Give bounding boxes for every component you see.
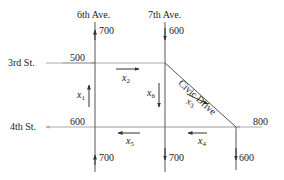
- flow-3rd-left: 500: [70, 53, 85, 63]
- flow-6th-bottom: 700: [99, 153, 114, 163]
- x6-label: x6: [147, 88, 155, 101]
- sixth-avenue-label: 6th Ave.: [77, 10, 110, 20]
- x4-label: x4: [198, 136, 206, 149]
- flow-7th-bottom: 700: [169, 153, 184, 163]
- x2-label: x2: [122, 73, 130, 86]
- flow-6th-top: 700: [99, 26, 114, 36]
- flow-right-bottom: 600: [239, 153, 254, 163]
- flow-7th-top: 600: [169, 26, 184, 36]
- third-street-label: 3rd St.: [8, 58, 35, 68]
- flow-4th-right: 800: [253, 117, 268, 127]
- flow-4th-left: 600: [70, 117, 85, 127]
- x1-label: x1: [77, 90, 85, 103]
- x5-label: x5: [126, 136, 134, 149]
- seventh-avenue-label: 7th Ave.: [148, 10, 181, 20]
- fourth-street-label: 4th St.: [10, 122, 36, 132]
